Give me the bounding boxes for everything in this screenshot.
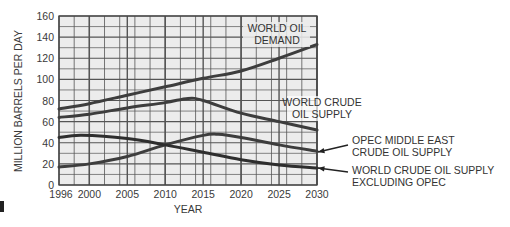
y-axis-ticks: 020406080100120140160 bbox=[36, 10, 54, 191]
label-world-oil-demand: WORLD OIL bbox=[248, 22, 307, 34]
x-axis-label: YEAR bbox=[174, 203, 203, 215]
y-tick-label: 100 bbox=[36, 73, 54, 85]
y-tick-label: 60 bbox=[42, 116, 54, 128]
x-tick-label: 2020 bbox=[229, 188, 253, 200]
x-tick-label: 2010 bbox=[154, 188, 178, 200]
label-opec-middle-east: CRUDE OIL SUPPLY bbox=[352, 146, 452, 158]
y-tick-label: 40 bbox=[42, 137, 54, 149]
label-world-crude-oil-supply: WORLD CRUDE bbox=[282, 96, 361, 108]
edge-mark bbox=[0, 201, 4, 212]
x-tick-label: 2015 bbox=[191, 188, 215, 200]
x-tick-label: 2030 bbox=[305, 188, 329, 200]
x-tick-label: 2025 bbox=[267, 188, 291, 200]
label-world-crude-oil-supply: OIL SUPPLY bbox=[292, 108, 352, 120]
x-tick-label: 1996 bbox=[49, 188, 73, 200]
y-tick-label: 140 bbox=[36, 31, 54, 43]
x-tick-label: 2000 bbox=[78, 188, 102, 200]
y-tick-label: 160 bbox=[36, 10, 54, 22]
label-excluding-opec: EXCLUDING OPEC bbox=[352, 176, 446, 188]
label-opec-middle-east: OPEC MIDDLE EAST bbox=[352, 134, 455, 146]
label-world-oil-demand: DEMAND bbox=[254, 34, 300, 46]
x-axis-ticks: 19962000200520102015202020252030 bbox=[49, 188, 329, 200]
y-tick-label: 20 bbox=[42, 158, 54, 170]
arrow-excluding-opec-icon-head bbox=[318, 166, 325, 171]
y-axis-label: MILLION BARRELS PER DAY bbox=[12, 30, 24, 172]
label-excluding-opec: WORLD CRUDE OIL SUPPLY bbox=[352, 164, 494, 176]
x-tick-label: 2005 bbox=[116, 188, 140, 200]
y-tick-label: 80 bbox=[42, 95, 54, 107]
oil-supply-demand-chart: 020406080100120140160 199620002005201020… bbox=[0, 0, 510, 227]
y-tick-label: 120 bbox=[36, 52, 54, 64]
